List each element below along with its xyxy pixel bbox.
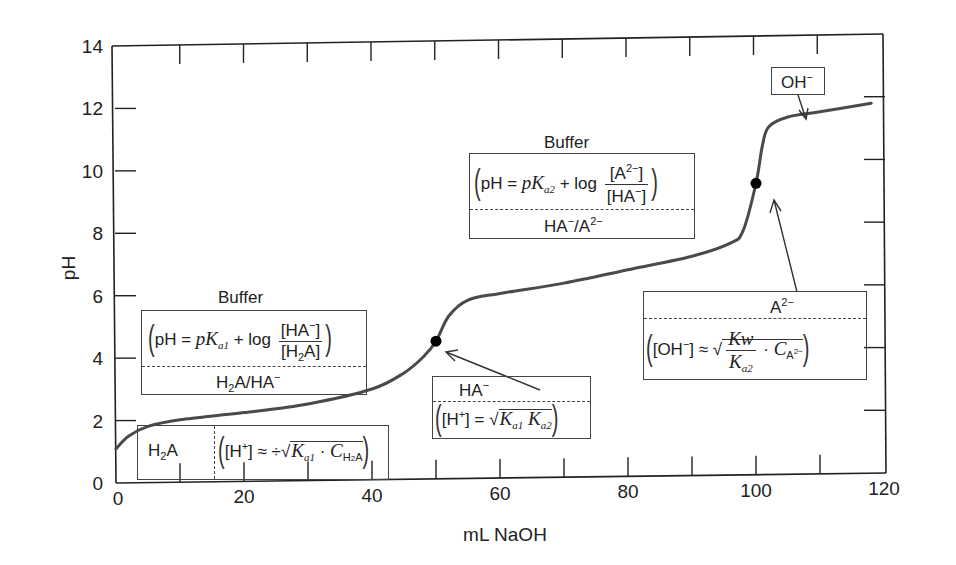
y-tick-label: 8 (92, 223, 103, 244)
oh-label: OH− (781, 71, 813, 93)
buffer2-title: Buffer (544, 133, 589, 153)
y-tick-label: 4 (92, 348, 103, 369)
ha-equation: ([H+] = √Ka1 Ka2) (435, 407, 558, 431)
buffer2-equation: (pH = pKa2 + log [A2−][HA−]) (474, 162, 658, 207)
h2a-divider (214, 426, 215, 479)
oh-annotation-box: OH− (771, 67, 825, 95)
x-tick-label: 120 (868, 478, 900, 499)
buffer1-annotation-box: (pH = pKa1 + log [HA−][H2A]) H2A/HA− (141, 310, 367, 395)
a2-equation: ([OH−] ≈ √KwKa2 · CA2−) (646, 328, 809, 374)
buffer2-annotation-box: (pH = pKa2 + log [A2−][HA−]) HA−/A2− (469, 153, 695, 239)
ha-divider (433, 401, 590, 402)
h2a-species-label: H2A (148, 441, 178, 462)
y-tick-label: 0 (92, 473, 103, 494)
equivalence-point-marker (431, 336, 442, 347)
x-tick-label: 60 (489, 483, 510, 504)
x-axis-title: mL NaOH (463, 524, 547, 545)
x-tick-label: 20 (233, 486, 254, 507)
y-tick-label: 12 (82, 98, 103, 119)
y-tick-label: 6 (92, 286, 103, 307)
y-tick-label: 10 (82, 161, 103, 182)
x-tick-label: 100 (740, 480, 772, 501)
buffer2-divider (470, 209, 694, 210)
y-tick-label: 2 (92, 411, 103, 432)
a2-species-label: A2− (770, 296, 794, 318)
ha-species-label: HA− (459, 379, 489, 401)
buffer1-equation: (pH = pKa1 + log [HA−][H2A]) (148, 319, 332, 363)
h2a-equation: ([H+] ≈ ÷√Ka1 · CH2A) (218, 439, 369, 463)
buffer1-divider (142, 366, 366, 367)
buffer1-pair-label: H2A/HA− (216, 371, 281, 394)
buffer1-title: Buffer (218, 288, 263, 308)
x-tick-label: 40 (361, 485, 382, 506)
buffer2-pair-label: HA−/A2− (544, 215, 603, 237)
a2-annotation-box: A2− ([OH−] ≈ √KwKa2 · CA2−) (643, 291, 867, 380)
x-tick-label: 0 (113, 488, 124, 509)
x-tick-label: 80 (617, 481, 638, 502)
a2-divider (644, 318, 866, 319)
y-tick-label: 14 (82, 36, 104, 57)
equivalence-point-marker (751, 178, 762, 189)
y-axis-title: pH (58, 256, 79, 280)
ha-annotation-box: HA− ([H+] = √Ka1 Ka2) (432, 376, 591, 439)
h2a-annotation-box: H2A ([H+] ≈ ÷√Ka1 · CH2A) (137, 425, 389, 480)
